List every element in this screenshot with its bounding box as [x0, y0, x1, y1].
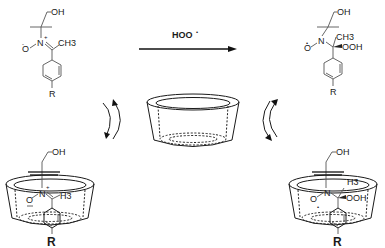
radical-dot: •	[196, 29, 198, 35]
reactant-n-label: N	[37, 38, 44, 48]
equilibrium-arrows-right	[263, 99, 278, 141]
product-ooh-label: OOH	[342, 42, 363, 52]
complex-left-oh-label: OH	[52, 147, 66, 157]
product-oh-label: OH	[337, 7, 351, 17]
svg-text:•: •	[317, 204, 319, 210]
complex-left-o-label: O	[26, 195, 33, 205]
complex-right-ooh-label: OOH	[346, 193, 367, 203]
complex-right-r-label: R	[333, 235, 342, 248]
product-ch3-label: CH3	[336, 32, 354, 42]
complex-right-h3-label: H3	[347, 177, 359, 187]
svg-text:-: -	[22, 41, 24, 47]
complex-right-o-label: O	[310, 194, 317, 204]
inclusion-complex-right: OH H3 N O • OOH R	[289, 147, 377, 248]
svg-text:+: +	[44, 34, 48, 40]
reaction-scheme: OH N + O - CH3 R HOO • OH	[0, 0, 385, 248]
complex-left-h3-label: H3	[60, 191, 72, 201]
cyclodextrin-host	[147, 94, 239, 147]
reaction-arrow: HOO •	[139, 29, 237, 52]
reactant-oh-label: OH	[51, 7, 65, 17]
product-n-label: N	[318, 36, 325, 46]
reagent-label: HOO	[172, 30, 193, 40]
complex-right-n-label: N	[324, 188, 331, 198]
reactant-molecule: OH N + O - CH3 R	[22, 7, 76, 99]
inclusion-complex-left: OH N + O H3 R	[6, 147, 94, 248]
equilibrium-arrows-left	[103, 99, 120, 139]
reactant-ch3-label: CH3	[58, 38, 76, 48]
complex-left-n-label: N	[39, 189, 46, 199]
svg-text:+: +	[46, 184, 50, 190]
product-molecule: OH N O • CH3 OOH R	[304, 7, 363, 97]
reactant-r-label: R	[49, 89, 56, 99]
complex-right-oh-label: OH	[336, 147, 350, 157]
svg-text:•: •	[306, 40, 308, 46]
product-r-label: R	[330, 87, 337, 97]
complex-left-r-label: R	[47, 235, 56, 248]
